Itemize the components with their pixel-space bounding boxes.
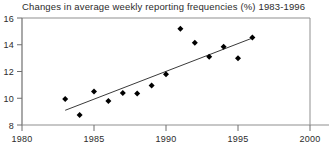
data-point [62, 96, 68, 102]
data-point [120, 90, 126, 96]
data-point-group [62, 26, 255, 118]
y-axis-ticks [17, 18, 22, 125]
data-point [192, 40, 198, 46]
data-point [105, 98, 111, 104]
data-point [77, 112, 83, 118]
x-tick-label-1980: 1980 [12, 134, 33, 144]
x-axis-ticks [22, 125, 310, 131]
data-point [235, 55, 241, 61]
y-tick-label-14: 14 [4, 40, 14, 50]
data-point [91, 89, 97, 95]
x-tick-label-2000: 2000 [300, 134, 321, 144]
x-tick-label-1995: 1995 [228, 134, 249, 144]
scatter-plot: 16 14 12 10 8 1980 1985 1990 1995 2000 [0, 0, 329, 146]
data-point [149, 83, 155, 89]
data-point [177, 26, 183, 32]
data-point [206, 54, 212, 60]
data-point [134, 91, 140, 97]
x-tick-label-1990: 1990 [156, 134, 177, 144]
y-tick-label-8: 8 [9, 121, 14, 131]
data-point [249, 34, 255, 40]
chart-screenshot: Changes in average weekly reporting freq… [0, 0, 329, 146]
y-tick-label-16: 16 [4, 14, 14, 24]
x-tick-label-1985: 1985 [84, 134, 105, 144]
y-tick-label-12: 12 [4, 67, 14, 77]
y-tick-label-10: 10 [4, 94, 14, 104]
